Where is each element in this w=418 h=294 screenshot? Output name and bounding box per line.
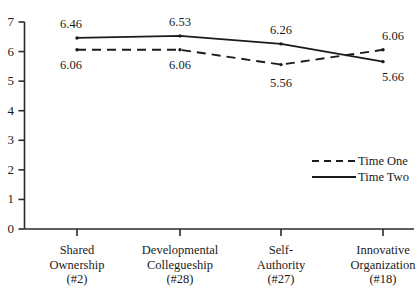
x-category-line: Organization [313, 258, 418, 273]
x-category-line: (#18) [313, 272, 418, 287]
legend-label-time-one: Time One [358, 155, 408, 168]
data-point-marker [279, 42, 282, 45]
data-point-marker [75, 48, 78, 51]
data-point-marker [178, 34, 181, 37]
y-tick-label-5: 5 [0, 74, 14, 87]
y-tick-label-7: 7 [0, 15, 14, 28]
data-point-marker [381, 60, 384, 63]
data-point-marker [381, 48, 384, 51]
series-layer [75, 34, 384, 66]
point-value-label: 6.53 [140, 16, 220, 29]
point-value-label: 6.46 [31, 18, 111, 31]
legend-label-time-two: Time Two [358, 171, 409, 184]
series-line-time-one [77, 50, 383, 65]
point-value-label: 6.06 [31, 59, 111, 72]
y-tick-label-6: 6 [0, 45, 14, 58]
x-axis-ticks [77, 229, 383, 236]
y-axis-ticks [19, 22, 25, 229]
y-tick-label-4: 4 [0, 104, 14, 117]
line-chart: 01234567 SharedOwnership(#2)Developmenta… [0, 0, 418, 294]
legend-swatches [312, 161, 356, 177]
x-category-line: Innovative [313, 243, 418, 258]
data-point-marker [178, 48, 181, 51]
y-tick-label-0: 0 [0, 222, 14, 235]
y-tick-label-1: 1 [0, 192, 14, 205]
x-category-label-3: InnovativeOrganization(#18) [313, 243, 418, 287]
data-point-marker [75, 36, 78, 39]
point-value-label: 6.06 [140, 59, 220, 72]
y-tick-label-2: 2 [0, 163, 14, 176]
data-point-marker [279, 63, 282, 66]
point-value-label: 6.26 [241, 24, 321, 37]
point-value-label: 5.66 [353, 71, 418, 84]
point-value-label: 5.56 [241, 77, 321, 90]
point-value-label: 6.06 [353, 30, 418, 43]
y-tick-label-3: 3 [0, 133, 14, 146]
